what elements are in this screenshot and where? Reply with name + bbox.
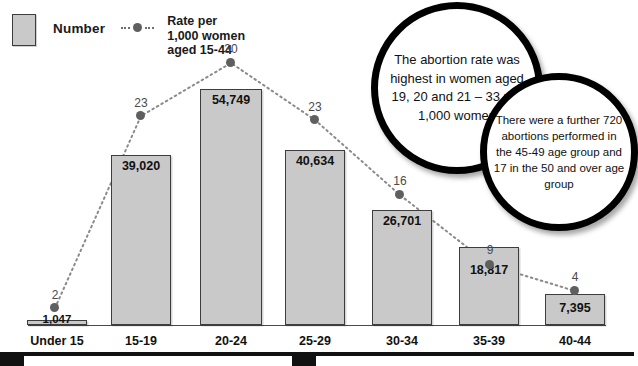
bar-value-20-24: 54,749 — [200, 93, 262, 107]
rate-value-25-29: 23 — [285, 100, 345, 114]
x-axis-label-30-34: 30-34 — [362, 334, 442, 348]
x-axis-label-under-15: Under 15 — [17, 334, 97, 348]
bar-25-29 — [285, 150, 345, 325]
callout-bubble-older-age-groups: There were a further 720 abortions perfo… — [480, 73, 638, 231]
bar-20-24 — [200, 89, 262, 325]
bottom-panel-left — [24, 356, 292, 366]
rate-value-20-24: 30 — [201, 42, 261, 56]
bar-value-25-29: 40,634 — [285, 154, 345, 168]
x-axis-label-35-39: 35-39 — [449, 334, 529, 348]
bottom-panel-right — [316, 356, 634, 366]
rate-value-15-19: 23 — [111, 96, 171, 110]
bar-value-40-44: 7,395 — [545, 301, 605, 315]
rate-value-40-44: 4 — [545, 270, 605, 284]
bar-value-under-15: 1,047 — [27, 313, 87, 325]
bar-15-19 — [111, 155, 171, 325]
bottom-black-band — [0, 352, 634, 366]
x-axis-baseline — [28, 325, 606, 326]
bar-value-30-34: 26,701 — [372, 214, 432, 228]
rate-dot-25-29 — [310, 115, 319, 124]
rate-dot-20-24 — [226, 58, 235, 67]
bar-value-15-19: 39,020 — [111, 159, 171, 173]
rate-dot-30-34 — [395, 190, 404, 199]
rate-value-under-15: 2 — [25, 288, 85, 302]
rate-dot-40-44 — [570, 286, 579, 295]
rate-dot-35-39 — [485, 260, 494, 269]
rate-dot-15-19 — [136, 111, 145, 120]
callout-bubble-2-text: There were a further 720 abortions perfo… — [487, 112, 631, 192]
rate-value-30-34: 16 — [370, 174, 430, 188]
x-axis-label-25-29: 25-29 — [275, 334, 355, 348]
bar-35-39 — [459, 247, 519, 325]
rate-value-35-39: 9 — [460, 243, 520, 257]
x-axis-label-40-44: 40-44 — [535, 334, 615, 348]
x-axis-label-20-24: 20-24 — [191, 334, 271, 348]
rate-dot-under-15 — [50, 303, 59, 312]
x-axis-label-15-19: 15-19 — [101, 334, 181, 348]
